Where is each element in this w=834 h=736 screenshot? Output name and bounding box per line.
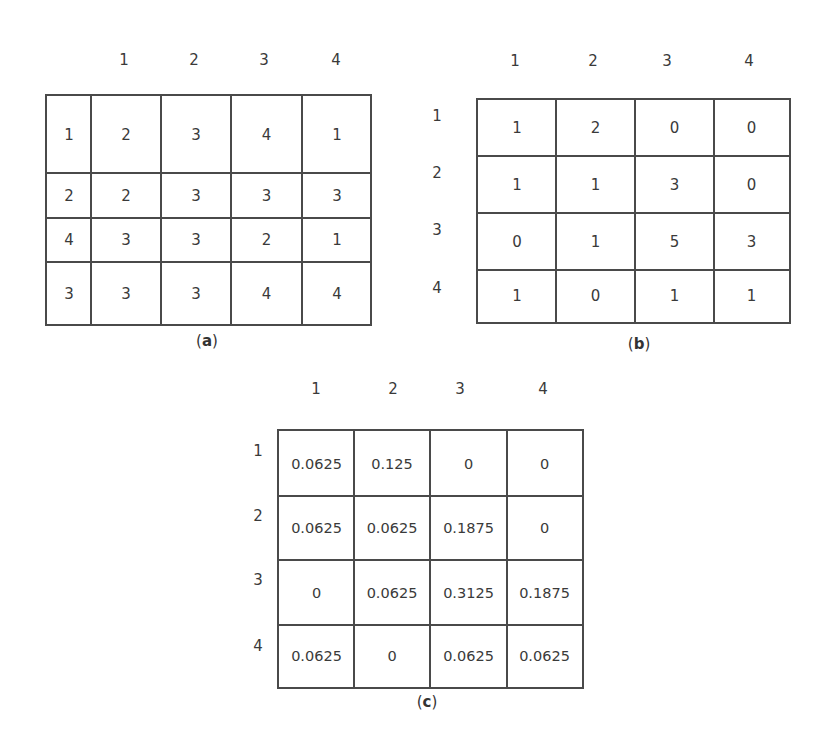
row-header: 1 bbox=[432, 109, 442, 124]
col-header: 4 bbox=[538, 382, 548, 397]
cell: 0 bbox=[714, 156, 789, 213]
col-header: 1 bbox=[119, 53, 129, 68]
cell: 0.0625 bbox=[507, 625, 582, 687]
row-header: 3 bbox=[253, 573, 263, 588]
cell: 0 bbox=[507, 496, 582, 560]
cell: 3 bbox=[161, 173, 231, 218]
grid-a: 1 2 3 4 1 2 2 3 3 3 4 3 3 2 1 3 3 3 4 4 bbox=[45, 94, 372, 326]
cell: 1 bbox=[47, 96, 91, 173]
cell: 1 bbox=[635, 270, 714, 322]
caption-a: (a) bbox=[196, 334, 218, 349]
cell: 3 bbox=[714, 213, 789, 270]
cell: 5 bbox=[635, 213, 714, 270]
grid-b: 1 2 0 0 1 1 3 0 0 1 5 3 1 0 1 1 bbox=[476, 98, 791, 324]
cell: 0.0625 bbox=[279, 431, 354, 496]
cell: 0 bbox=[556, 270, 635, 322]
cell: 1 bbox=[556, 213, 635, 270]
cell: 0.125 bbox=[354, 431, 430, 496]
row-header: 1 bbox=[253, 444, 263, 459]
col-header: 2 bbox=[588, 54, 598, 69]
col-header: 4 bbox=[331, 53, 341, 68]
cell: 0.0625 bbox=[279, 496, 354, 560]
row-header: 4 bbox=[253, 639, 263, 654]
cell: 1 bbox=[478, 156, 556, 213]
cell: 1 bbox=[556, 156, 635, 213]
row-header: 2 bbox=[432, 166, 442, 181]
cell: 3 bbox=[47, 262, 91, 326]
row-header: 3 bbox=[432, 223, 442, 238]
cell: 3 bbox=[91, 218, 161, 262]
col-header: 3 bbox=[662, 54, 672, 69]
cell: 3 bbox=[231, 173, 302, 218]
cell: 2 bbox=[91, 173, 161, 218]
cell: 1 bbox=[714, 270, 789, 322]
cell: 4 bbox=[302, 262, 372, 326]
cell: 4 bbox=[231, 96, 302, 173]
grid-c: 0.0625 0.125 0 0 0.0625 0.0625 0.1875 0 … bbox=[277, 429, 584, 689]
col-header: 3 bbox=[455, 382, 465, 397]
cell: 0.0625 bbox=[354, 560, 430, 625]
cell: 1 bbox=[302, 218, 372, 262]
cell: 0 bbox=[478, 213, 556, 270]
caption-b: (b) bbox=[628, 337, 650, 352]
col-header: 1 bbox=[510, 54, 520, 69]
col-header: 4 bbox=[744, 54, 754, 69]
cell: 0.0625 bbox=[430, 625, 507, 687]
row-header: 4 bbox=[432, 281, 442, 296]
cell: 0.0625 bbox=[279, 625, 354, 687]
cell: 0 bbox=[354, 625, 430, 687]
cell: 2 bbox=[91, 96, 161, 173]
col-header: 2 bbox=[189, 53, 199, 68]
cell: 3 bbox=[91, 262, 161, 326]
cell: 3 bbox=[161, 218, 231, 262]
cell: 3 bbox=[302, 173, 372, 218]
cell: 0.1875 bbox=[507, 560, 582, 625]
cell: 0 bbox=[279, 560, 354, 625]
cell: 4 bbox=[231, 262, 302, 326]
cell: 3 bbox=[635, 156, 714, 213]
cell: 0 bbox=[714, 100, 789, 156]
cell: 3 bbox=[161, 96, 231, 173]
row-header: 2 bbox=[253, 509, 263, 524]
cell: 2 bbox=[231, 218, 302, 262]
cell: 0.1875 bbox=[430, 496, 507, 560]
cell: 0 bbox=[635, 100, 714, 156]
cell: 4 bbox=[47, 218, 91, 262]
cell: 3 bbox=[161, 262, 231, 326]
cell: 0.3125 bbox=[430, 560, 507, 625]
cell: 0 bbox=[430, 431, 507, 496]
cell: 1 bbox=[478, 270, 556, 322]
cell: 0 bbox=[507, 431, 582, 496]
cell: 0.0625 bbox=[354, 496, 430, 560]
caption-c: (c) bbox=[417, 695, 438, 710]
cell: 2 bbox=[47, 173, 91, 218]
col-header: 3 bbox=[259, 53, 269, 68]
cell: 1 bbox=[478, 100, 556, 156]
cell: 2 bbox=[556, 100, 635, 156]
col-header: 2 bbox=[388, 382, 398, 397]
col-header: 1 bbox=[311, 382, 321, 397]
cell: 1 bbox=[302, 96, 372, 173]
